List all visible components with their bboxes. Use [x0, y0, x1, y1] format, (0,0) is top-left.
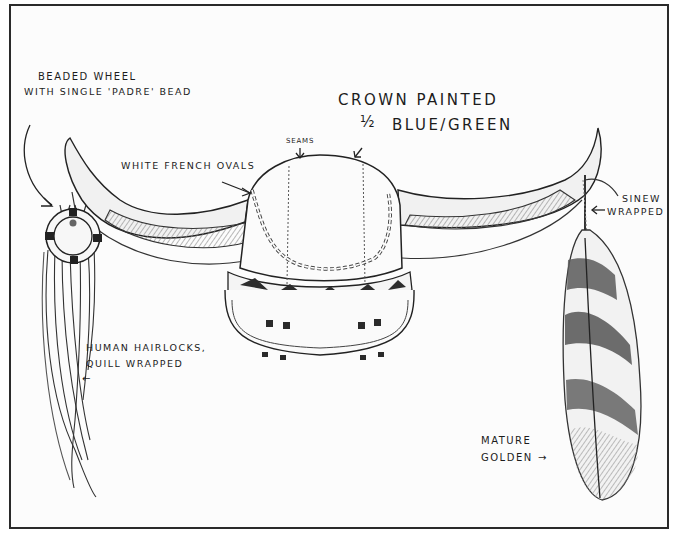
beaded-wheel-label-line2: with single 'Padre' bead	[24, 86, 192, 99]
crown	[240, 155, 402, 285]
crown-fraction: ½	[360, 112, 377, 132]
beaded-wheel-label-line1: Beaded wheel	[38, 70, 137, 84]
seams-label: Seams	[286, 137, 314, 146]
sinew-label-line2: wrapped	[607, 206, 664, 219]
right-horn	[398, 128, 601, 258]
padre-bead	[70, 220, 77, 227]
brow-band	[225, 272, 414, 360]
hairlocks-arrow: ←	[82, 372, 92, 386]
golden-eagle-feather	[563, 175, 641, 500]
crown-label-line2: Blue/Green	[392, 115, 513, 135]
sinew-label-line1: Sinew	[622, 193, 661, 206]
feather-arrow: →	[538, 451, 548, 465]
white-french-ovals-label: White French ovals	[121, 160, 255, 173]
hairlocks-label-line1: Human hairlocks,	[86, 342, 206, 355]
hairlocks-label-line2: quill wrapped	[86, 358, 183, 371]
feather-label-line2: golden	[481, 451, 533, 465]
crown-label-line1: Crown painted	[338, 90, 498, 110]
feather-label-line1: Mature	[481, 434, 531, 448]
